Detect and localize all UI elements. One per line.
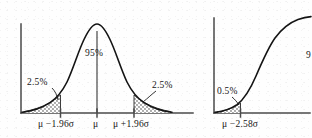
x-tick-label-lower-bound: μ −2.58σ (222, 119, 258, 129)
normal-curve-95-svg: 2.5% 2.5% 95% μ −1.96σ μ μ +1.96σ (0, 0, 196, 138)
left-tail-leader-line (232, 97, 239, 105)
left-tail-percent-label: 2.5% (27, 77, 48, 87)
right-tail-leader-line (143, 91, 156, 102)
confidence-interval-99-figure: 0.5% μ −2.58σ 9 (196, 0, 312, 138)
central-percent-label-clipped: 9 (306, 50, 311, 60)
central-percent-label: 95% (85, 48, 103, 58)
x-tick-label-lower-bound: μ −1.96σ (38, 119, 74, 129)
left-tail-percent-label: 0.5% (217, 86, 238, 96)
normal-curve-99-svg: 0.5% μ −2.58σ 9 (196, 0, 312, 138)
x-tick-label-mean: μ (93, 119, 98, 129)
normal-curve-path (215, 17, 311, 113)
x-tick-label-upper-bound: μ +1.96σ (113, 119, 149, 129)
right-tail-percent-label: 2.5% (152, 80, 173, 90)
confidence-interval-95-figure: 2.5% 2.5% 95% μ −1.96σ μ μ +1.96σ (0, 0, 196, 138)
figure-root: 2.5% 2.5% 95% μ −1.96σ μ μ +1.96σ (0, 0, 312, 138)
